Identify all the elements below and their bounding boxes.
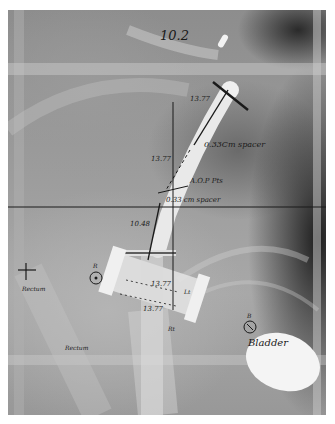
label-tandem-length-mid: 13.77 [151, 155, 171, 163]
label-ovoid-left: Lt [184, 288, 190, 295]
label-spacer-lower: 0.33 cm spacer [166, 196, 220, 204]
label-rectum-2: Rectum [65, 344, 88, 351]
label-ovoid-length-upper: 13.77 [151, 280, 171, 288]
xray-film: 10.2 13.77 0.33Cm spacer 13.77 A.O.P Pts… [8, 10, 326, 415]
label-rectum-1: Rectum [22, 285, 45, 292]
label-tandem-length-lower: 10.48 [130, 220, 150, 228]
label-bladder: Bladder [248, 337, 288, 348]
label-ovoid-right: Rt [168, 325, 175, 332]
label-tandem-length-upper: 13.77 [190, 95, 210, 103]
label-bladder-marker: B [247, 312, 251, 319]
label-top-dose: 10.2 [160, 28, 189, 43]
label-rectum-marker: R [93, 262, 98, 269]
label-dose-points: A.O.P Pts [190, 177, 223, 185]
label-ovoid-length-lower: 13.77 [143, 305, 163, 313]
xray-structures [8, 10, 326, 415]
label-spacer-upper: 0.33Cm spacer [204, 140, 265, 149]
